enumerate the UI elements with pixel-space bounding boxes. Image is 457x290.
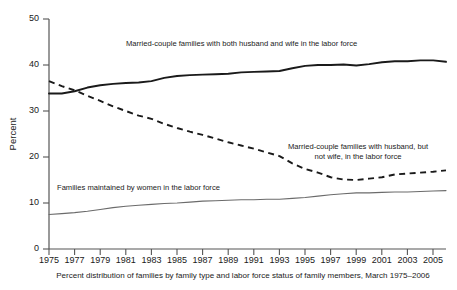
x-tick-label-2003: 2003 bbox=[397, 255, 417, 265]
y-tick-label-30: 30 bbox=[29, 105, 39, 115]
x-tick-label-1979: 1979 bbox=[90, 255, 110, 265]
x-tick-labels: 1975 1977 1979 1981 1983 1985 1987 1989 … bbox=[39, 255, 443, 265]
y-tick-label-0: 0 bbox=[34, 243, 39, 253]
x-tick-label-1975: 1975 bbox=[39, 255, 59, 265]
y-tick-label-40: 40 bbox=[29, 59, 39, 69]
series-line-married-both-in-labor-force bbox=[49, 60, 446, 93]
x-tick-label-1987: 1987 bbox=[193, 255, 213, 265]
x-tick-label-1977: 1977 bbox=[65, 255, 85, 265]
annotation-husband-only-line2: not wife, in the labor force bbox=[315, 152, 402, 161]
x-tick-label-1989: 1989 bbox=[218, 255, 238, 265]
chart-container: 50 40 30 20 10 0 Percent bbox=[0, 0, 457, 290]
x-tick-label-2005: 2005 bbox=[423, 255, 443, 265]
x-tick-label-1999: 1999 bbox=[346, 255, 366, 265]
y-tick-label-10: 10 bbox=[29, 197, 39, 207]
annotation-husband-only-line1: Married-couple families with husband, bu… bbox=[288, 142, 429, 151]
chart-caption: Percent distribution of families by fami… bbox=[56, 271, 430, 280]
series-line-husband-only-in-labor-force bbox=[49, 81, 446, 180]
y-tick-label-20: 20 bbox=[29, 151, 39, 161]
line-chart: 50 40 30 20 10 0 Percent bbox=[0, 0, 457, 290]
x-tick-label-1985: 1985 bbox=[167, 255, 187, 265]
annotations-group: Married-couple families with both husban… bbox=[57, 39, 429, 192]
x-axis: 1975 1977 1979 1981 1983 1985 1987 1989 … bbox=[39, 249, 446, 265]
x-tick-label-1997: 1997 bbox=[321, 255, 341, 265]
y-axis: 50 40 30 20 10 0 Percent bbox=[7, 13, 49, 253]
annotation-women-maintained: Families maintained by women in the labo… bbox=[57, 183, 220, 192]
series-line-women-maintained-families bbox=[49, 191, 446, 215]
y-axis-title: Percent bbox=[7, 117, 18, 150]
x-tick-label-2001: 2001 bbox=[372, 255, 392, 265]
x-tick-label-1991: 1991 bbox=[244, 255, 264, 265]
x-tick-label-1981: 1981 bbox=[116, 255, 136, 265]
x-tick-label-1983: 1983 bbox=[141, 255, 161, 265]
y-tick-label-50: 50 bbox=[29, 13, 39, 23]
x-ticks bbox=[49, 249, 433, 255]
y-tick-labels: 50 40 30 20 10 0 bbox=[29, 13, 39, 253]
annotation-both-spouses: Married-couple families with both husban… bbox=[126, 39, 357, 48]
x-tick-label-1995: 1995 bbox=[295, 255, 315, 265]
y-ticks bbox=[43, 19, 49, 249]
x-tick-label-1993: 1993 bbox=[269, 255, 289, 265]
